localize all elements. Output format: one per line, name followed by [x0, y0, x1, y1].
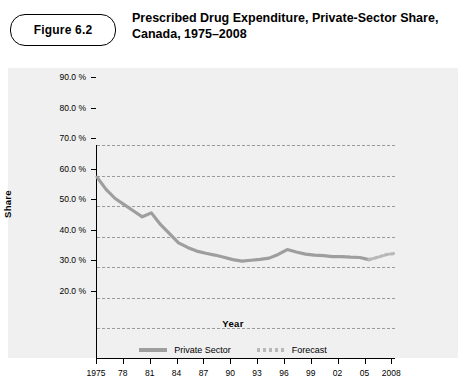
- y-tick-label: 70.0 %: [40, 133, 86, 143]
- x-axis-tick: [257, 359, 258, 364]
- legend-label: Private Sector: [174, 345, 231, 355]
- y-axis-tick: [91, 108, 96, 109]
- x-axis-tick: [311, 359, 312, 364]
- y-tick-label: 90.0 %: [40, 72, 86, 82]
- x-axis-tick: [150, 359, 151, 364]
- series-line-forecast: [369, 253, 396, 259]
- y-tick-label: 80.0 %: [40, 103, 86, 113]
- legend-item-forecast: Forecast: [257, 345, 327, 355]
- x-axis-tick: [230, 359, 231, 364]
- x-axis-tick: [365, 359, 366, 364]
- dashed-line-swatch-icon: [257, 348, 285, 352]
- y-tick-label: 60.0 %: [40, 164, 86, 174]
- x-axis-tick: [338, 359, 339, 364]
- figure-number-badge: Figure 6.2: [10, 14, 116, 46]
- legend-item-private-sector: Private Sector: [139, 345, 231, 355]
- y-tick-label: 40.0 %: [40, 225, 86, 235]
- y-tick-label: 30.0 %: [40, 255, 86, 265]
- y-axis-tick: [91, 77, 96, 78]
- x-axis-tick: [123, 359, 124, 364]
- legend-label: Forecast: [292, 345, 327, 355]
- series-line-private-sector: [97, 177, 369, 261]
- x-axis-tick: [391, 359, 392, 364]
- y-axis-title: Share: [2, 190, 13, 218]
- x-axis-tick: [177, 359, 178, 364]
- figure-number-label: Figure 6.2: [34, 23, 93, 37]
- x-tick-label: 2008: [374, 368, 408, 378]
- y-tick-label: 20.0 %: [40, 286, 86, 296]
- y-tick-label: 50.0 %: [40, 194, 86, 204]
- x-axis-tick: [96, 359, 97, 364]
- solid-line-swatch-icon: [139, 348, 167, 352]
- y-axis-tick: [91, 138, 96, 139]
- x-axis-tick: [284, 359, 285, 364]
- x-axis-title: Year: [0, 318, 466, 329]
- figure-title: Prescribed Drug Expenditure, Private-Sec…: [132, 10, 442, 42]
- x-axis-tick: [203, 359, 204, 364]
- chart-legend: Private Sector Forecast: [0, 345, 466, 355]
- figure-header: Figure 6.2 Prescribed Drug Expenditure, …: [0, 0, 466, 68]
- chart-panel: Share 90.0 % 80.0 % 70.0 % 60.0 % 50.0 %…: [8, 68, 458, 358]
